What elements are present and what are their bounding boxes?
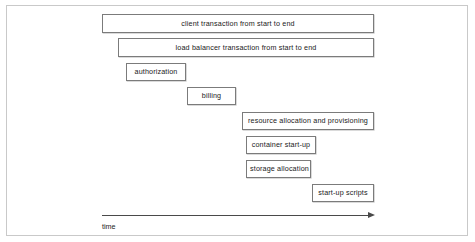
timeline-bar-label: authorization	[131, 68, 180, 75]
timeline-bar-resource-allocation-and-provisioning: resource allocation and provisioning	[242, 112, 374, 130]
timeline-bar-container-start-up: container start-up	[246, 136, 316, 154]
timeline-bar-billing: billing	[187, 87, 236, 105]
time-axis-line	[102, 215, 369, 216]
timeline-bar-start-up-scripts: start-up scripts	[312, 184, 374, 202]
timeline-figure: client transaction from start to end loa…	[0, 0, 475, 242]
timeline-bar-label: container start-up	[249, 141, 314, 148]
timeline-bar-label: client transaction from start to end	[178, 20, 297, 27]
timeline-bar-client-transaction: client transaction from start to end	[102, 14, 374, 33]
timeline-bar-label: start-up scripts	[315, 189, 370, 196]
timeline-bar-load-balancer-transaction: load balancer transaction from start to …	[118, 38, 374, 57]
time-axis-arrowhead-icon	[368, 212, 375, 218]
timeline-bar-label: storage allocation	[247, 165, 310, 172]
timeline-plot-area: client transaction from start to end loa…	[0, 0, 475, 242]
time-axis-label: time	[102, 223, 116, 230]
timeline-bar-storage-allocation: storage allocation	[246, 160, 311, 178]
timeline-bar-authorization: authorization	[126, 63, 186, 81]
timeline-bar-label: resource allocation and provisioning	[245, 117, 371, 124]
timeline-bar-label: load balancer transaction from start to …	[173, 44, 320, 51]
timeline-bar-label: billing	[199, 92, 224, 99]
